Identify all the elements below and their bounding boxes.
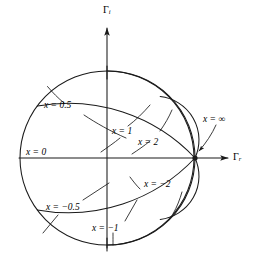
gamma-equals-one-point: [192, 155, 197, 160]
annotation-x-2: x = 2: [138, 138, 158, 148]
annotation-x-minus-0p5: x = −0.5: [46, 203, 80, 213]
real-axis-label: Γr: [233, 151, 241, 162]
leader-x-minus-0p5-lower: [43, 215, 58, 233]
leader-x-1-tail: [101, 138, 120, 152]
annotation-x-infinity: x = ∞: [203, 115, 225, 125]
annotation-x-minus-2: x = −2: [144, 180, 171, 190]
leader-x-2: [160, 110, 172, 131]
leader-x-minus-0p5-upper: [83, 183, 109, 200]
leader-x-infinity: [199, 125, 216, 151]
annotation-x-minus-1: x = −1: [92, 224, 119, 234]
annotation-x-0p5: x = 0.5: [44, 101, 71, 111]
annotation-x-1: x = 1: [112, 127, 132, 137]
annotation-x-0: x = 0: [26, 148, 46, 158]
smith-chart-figure: Γi Γr x = 0 x = 0.5 x = 1 x = 2 x = ∞ x …: [0, 0, 259, 263]
leader-x-minus-2-upper: [130, 177, 140, 189]
leader-x-minus-1-upper: [125, 200, 137, 221]
imaginary-axis-label: Γi: [103, 4, 111, 15]
